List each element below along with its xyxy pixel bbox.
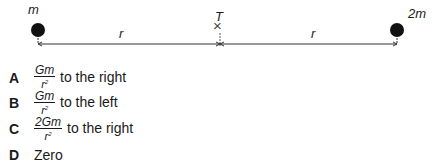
left-mass: [31, 23, 45, 37]
option-text: to the right: [67, 120, 133, 136]
option-d[interactable]: D Zero: [0, 143, 434, 165]
left-distance-label: r: [119, 26, 123, 41]
option-b[interactable]: B Gm r2 to the left: [0, 91, 434, 115]
option-text: Zero: [34, 147, 63, 163]
option-fraction: Gm r2: [34, 65, 55, 90]
option-letter: D: [9, 147, 19, 163]
fraction-numerator: 2Gm: [34, 117, 62, 129]
fraction-numerator: Gm: [34, 65, 55, 77]
denominator-exponent: 2: [45, 105, 48, 111]
option-letter: C: [9, 121, 19, 137]
option-fraction: 2Gm r2: [34, 117, 62, 142]
point-marker-icon: ×: [213, 17, 222, 34]
denominator-exponent: 2: [45, 79, 48, 85]
option-text: to the left: [60, 94, 118, 110]
option-fraction: Gm r2: [34, 91, 55, 116]
right-mass-label: 2m: [408, 6, 426, 21]
option-letter: B: [9, 95, 19, 111]
right-distance-label: r: [311, 26, 315, 41]
fraction-numerator: Gm: [34, 91, 55, 103]
option-letter: A: [9, 70, 19, 86]
diagram: m 2m T × r r: [0, 0, 434, 60]
denominator-exponent: 2: [48, 131, 51, 137]
right-mass: [390, 23, 404, 37]
option-a[interactable]: A Gm r2 to the right: [0, 65, 434, 89]
option-text: to the right: [60, 69, 126, 85]
option-c[interactable]: C 2Gm r2 to the right: [0, 117, 434, 141]
left-mass-label: m: [28, 2, 39, 17]
fraction-denominator: r2: [34, 129, 62, 142]
